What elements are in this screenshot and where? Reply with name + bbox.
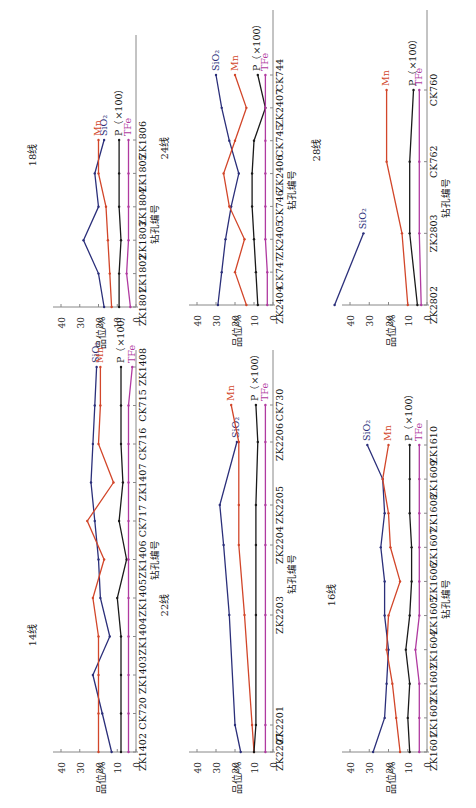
data-point xyxy=(408,160,410,162)
data-point xyxy=(122,481,124,483)
x-axis-label: 钻孔编号 xyxy=(286,170,297,210)
data-point xyxy=(251,724,253,726)
data-point xyxy=(125,272,127,274)
figure-canvas: 010203040品位/%ZK1801ZK1802ZK1803ZK1804ZK1… xyxy=(0,0,476,808)
category-label: ZK1804 xyxy=(137,188,148,226)
chart-title: 22线 xyxy=(158,594,170,617)
data-point xyxy=(408,512,410,514)
data-point xyxy=(264,238,266,240)
category-label: CK717 xyxy=(137,505,148,538)
data-point xyxy=(387,444,389,446)
data-point xyxy=(408,478,410,480)
data-point xyxy=(120,712,122,714)
x-axis-label: 钻孔编号 xyxy=(149,204,160,244)
data-point xyxy=(228,140,230,142)
data-point xyxy=(120,239,122,241)
category-label: CK720 xyxy=(137,697,148,730)
data-point xyxy=(118,520,120,522)
category-label: ZK2201 xyxy=(274,706,285,744)
data-point xyxy=(266,304,268,306)
data-point xyxy=(414,648,416,650)
category-label: ZK1403 xyxy=(137,656,148,694)
data-point xyxy=(127,635,129,637)
chart-title: 28线 xyxy=(310,139,322,162)
data-point xyxy=(217,304,219,306)
series-line-P xyxy=(254,405,258,752)
series-line-P xyxy=(252,75,265,305)
data-point xyxy=(385,683,387,685)
data-point xyxy=(405,648,407,650)
x-axis-label: 钻孔编号 xyxy=(440,579,451,619)
chart-14线: 010203040品位/%ZK1402CK720ZK1403ZK1404ZK14… xyxy=(26,311,160,795)
series-label-SiO2: SiO₂ xyxy=(210,50,221,71)
data-point xyxy=(418,478,420,480)
category-label: ZK1605 xyxy=(428,597,439,635)
data-point xyxy=(92,674,94,676)
data-point xyxy=(399,751,401,753)
data-point xyxy=(408,444,410,446)
data-point xyxy=(418,580,420,582)
data-point xyxy=(407,717,409,719)
data-point xyxy=(118,139,120,141)
value-tick-label: 30 xyxy=(365,762,375,774)
series-label-Mn: Mn xyxy=(94,347,105,363)
value-tick-label: 10 xyxy=(250,315,260,327)
value-tick-label: 10 xyxy=(113,762,123,774)
category-label: ZK1801 xyxy=(137,288,148,326)
data-point xyxy=(95,366,97,368)
category-label: CK762 xyxy=(428,145,439,178)
data-point xyxy=(243,614,245,616)
series-line-SiO2 xyxy=(84,140,105,307)
data-point xyxy=(418,683,420,685)
data-point xyxy=(418,512,420,514)
data-point xyxy=(395,717,397,719)
data-point xyxy=(118,272,120,274)
data-point xyxy=(127,597,129,599)
category-label: CK747 xyxy=(274,256,285,289)
data-point xyxy=(222,544,224,546)
series-label-Mn: Mn xyxy=(229,55,240,71)
category-label: ZK2406 xyxy=(274,155,285,193)
data-point xyxy=(109,272,111,274)
data-point xyxy=(407,304,409,306)
data-point xyxy=(86,520,88,522)
x-axis-label: 钻孔编号 xyxy=(149,540,160,580)
data-point xyxy=(116,597,118,599)
category-label: CK730 xyxy=(274,389,285,422)
category-label: CK745 xyxy=(274,124,285,157)
data-point xyxy=(253,140,255,142)
data-point xyxy=(264,441,266,443)
category-label: ZK2206 xyxy=(274,423,285,461)
data-point xyxy=(385,89,387,91)
data-point xyxy=(107,239,109,241)
category-label: ZK1406 xyxy=(137,541,148,579)
category-label: ZK1405 xyxy=(137,579,148,617)
data-point xyxy=(127,674,129,676)
data-point xyxy=(228,205,230,207)
category-label: ZK2803 xyxy=(428,214,439,252)
data-point xyxy=(127,558,129,560)
series-line-SiO2 xyxy=(220,442,241,752)
data-point xyxy=(90,481,92,483)
series-label-SiO2: SiO₂ xyxy=(357,208,368,229)
series-line-TFe xyxy=(415,445,419,752)
data-point xyxy=(416,304,418,306)
data-point xyxy=(253,751,255,753)
chart-title: 24线 xyxy=(158,137,170,160)
y-axis-label: 品位/% xyxy=(95,762,107,795)
data-point xyxy=(99,366,101,368)
category-label: ZK1408 xyxy=(137,348,148,386)
data-point xyxy=(82,239,84,241)
data-point xyxy=(94,404,96,406)
data-point xyxy=(97,172,99,174)
data-point xyxy=(118,306,120,308)
data-point xyxy=(255,504,257,506)
category-label: ZK1602 xyxy=(428,699,439,737)
chart-18线: 010203040品位/%ZK1801ZK1802ZK1803ZK1804ZK1… xyxy=(26,35,160,349)
series-label-TFe: TFe xyxy=(413,68,424,86)
data-point xyxy=(127,443,129,445)
data-point xyxy=(418,614,420,616)
data-point xyxy=(420,304,422,306)
data-point xyxy=(245,107,247,109)
series-line-P xyxy=(119,140,121,307)
